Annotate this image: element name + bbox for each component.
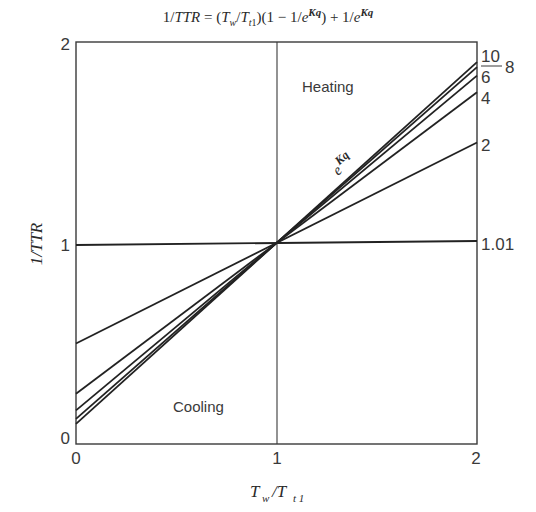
- y-tick-1: 1: [61, 236, 70, 255]
- cooling-label: Cooling: [173, 398, 224, 415]
- series-label-4: 4: [481, 89, 490, 108]
- x-axis-label-w: w: [262, 492, 270, 504]
- y-tick-2: 2: [61, 35, 70, 54]
- x-tick-1: 1: [272, 449, 281, 468]
- x-axis-label-t: T: [250, 482, 261, 501]
- y-axis-label-text: 1/TTR: [27, 222, 46, 265]
- series-label-10: 10: [481, 47, 500, 66]
- x-axis-label: T w /T t 1: [250, 482, 304, 504]
- x-tick-2: 2: [471, 449, 480, 468]
- x-axis-label-slash-t: /T: [271, 482, 288, 501]
- x-tick-0: 0: [71, 449, 80, 468]
- ekq-label: e Kq: [326, 148, 356, 178]
- series-label-6: 6: [481, 68, 490, 87]
- y-tick-0: 0: [61, 429, 70, 448]
- x-axis-label-t1: t 1: [293, 492, 304, 504]
- y-axis-label: 1/TTR: [27, 222, 46, 265]
- chart-canvas: 2 1 0 0 1 2 10 6 8 4 2 1.01 Heating Cool…: [0, 0, 536, 512]
- series-label-1-01: 1.01: [481, 235, 514, 254]
- heating-label: Heating: [302, 78, 354, 95]
- series-label-2: 2: [481, 136, 490, 155]
- series-label-8: 8: [505, 58, 514, 77]
